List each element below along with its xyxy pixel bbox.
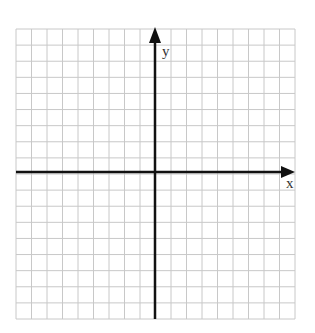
coordinate-plane: y x [0, 0, 315, 333]
grid [0, 0, 315, 333]
x-axis-label: x [286, 176, 294, 191]
y-axis-label: y [162, 44, 170, 59]
